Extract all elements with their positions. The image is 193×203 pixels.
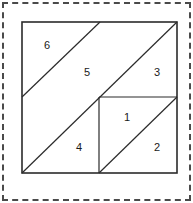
region-label-3: 3: [154, 66, 160, 78]
region-label-6: 6: [44, 39, 50, 51]
region-label-5: 5: [84, 66, 90, 78]
region-label-1: 1: [124, 111, 130, 123]
dissected-square-figure: 1 2 3 4 5 6: [0, 0, 193, 203]
region-label-4: 4: [76, 141, 82, 153]
region-label-2: 2: [154, 141, 160, 153]
figure-canvas: 1 2 3 4 5 6: [0, 0, 193, 203]
